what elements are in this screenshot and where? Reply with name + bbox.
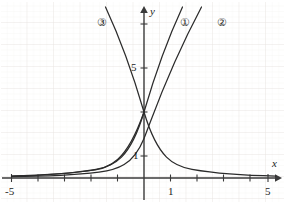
x-tick-label-5: 5: [265, 186, 271, 197]
x-axis-label: x: [272, 158, 277, 169]
curve-label-3: ③: [97, 17, 107, 28]
grid-lines: [1, 2, 284, 202]
exponential-functions-graph: x y -5 1 5 1 5 ③ ① ②: [0, 0, 285, 207]
y-axis-label: y: [150, 6, 155, 17]
y-tick-label-1: 1: [133, 150, 139, 161]
y-tick-label-5: 5: [131, 62, 137, 73]
x-tick-label--5: -5: [5, 186, 14, 197]
x-tick-label-1: 1: [168, 186, 174, 197]
curve-label-1: ①: [180, 17, 190, 28]
curve-label-2: ②: [217, 17, 227, 28]
graph-canvas: [0, 0, 285, 207]
